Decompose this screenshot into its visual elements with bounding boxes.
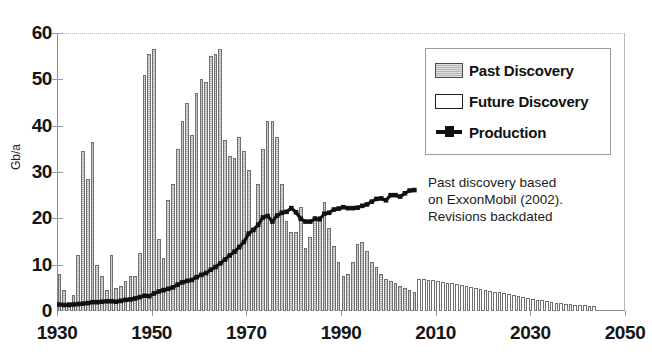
production-marker-1992 (351, 206, 356, 211)
production-marker-1969 (242, 240, 247, 245)
production-marker-1958 (190, 278, 195, 283)
production-marker-1983 (308, 219, 313, 224)
production-marker-1972 (256, 223, 261, 228)
production-marker-1979 (289, 206, 294, 211)
x-axis-tick-1990: 1990 (301, 322, 381, 344)
production-marker-2004 (407, 188, 412, 193)
production-marker-1962 (209, 267, 214, 272)
production-marker-1971 (251, 228, 256, 233)
production-marker-1995 (365, 202, 370, 207)
legend-label-production: Production (469, 124, 546, 141)
y-axis-tick-0: 0 (6, 301, 52, 320)
chart-legend: Past Discovery Future Discovery Producti… (425, 48, 611, 155)
production-marker-1937 (90, 300, 95, 305)
y-axis-title: Gb/a (9, 127, 23, 187)
production-marker-1996 (369, 199, 374, 204)
x-axis-tick-2010: 2010 (396, 322, 476, 344)
y-axis-tick-10: 10 (6, 255, 52, 274)
production-marker-1939 (100, 299, 105, 304)
production-marker-1940 (104, 299, 109, 304)
production-marker-1963 (213, 265, 218, 270)
production-marker-1947 (138, 295, 143, 300)
annotation-line-2: on ExxonMobil (2002). (428, 191, 628, 208)
production-marker-2001 (393, 193, 398, 198)
x-tick-mark-1950 (152, 311, 153, 316)
production-marker-1975 (270, 219, 275, 224)
production-marker-1931 (62, 303, 67, 308)
production-marker-2003 (403, 191, 408, 196)
x-axis-tick-1950: 1950 (112, 322, 192, 344)
production-marker-1982 (303, 219, 308, 224)
x-axis-tick-1930: 1930 (17, 322, 97, 344)
legend-item-production: Production (435, 119, 546, 145)
production-marker-1961 (204, 271, 209, 276)
y-axis-tick-labels: 0102030405060 (0, 0, 52, 363)
production-marker-1941 (109, 299, 114, 304)
production-marker-1945 (128, 297, 133, 302)
production-marker-1987 (327, 210, 332, 215)
x-tick-mark-2050 (625, 311, 626, 316)
x-tick-mark-1990 (341, 311, 342, 316)
production-marker-1965 (223, 257, 228, 262)
production-marker-1991 (346, 206, 351, 211)
production-marker-1993 (355, 205, 360, 210)
production-marker-1968 (237, 245, 242, 250)
production-marker-1949 (147, 294, 152, 299)
production-marker-1994 (360, 204, 365, 209)
production-line-swatch-icon (435, 124, 463, 140)
chart-annotation: Past discovery based on ExxonMobil (2002… (428, 174, 628, 225)
production-marker-1952 (161, 288, 166, 293)
production-marker-1990 (341, 205, 346, 210)
production-marker-1988 (332, 207, 337, 212)
production-marker-1935 (81, 301, 86, 306)
x-tick-mark-1970 (246, 311, 247, 316)
production-marker-1978 (284, 210, 289, 215)
discovery-production-chart: 0102030405060 Gb/a 193019501970199020102… (0, 0, 652, 363)
legend-item-future-discovery: Future Discovery (435, 88, 588, 114)
production-marker-1967 (232, 249, 237, 254)
production-marker-1955 (175, 282, 180, 287)
production-marker-1985 (317, 217, 322, 222)
production-marker-1960 (199, 273, 204, 278)
production-marker-1956 (180, 280, 185, 285)
x-tick-mark-2030 (530, 311, 531, 316)
production-marker-1948 (142, 293, 147, 298)
production-marker-1938 (95, 300, 100, 305)
y-axis-tick-50: 50 (6, 69, 52, 88)
production-marker-2002 (398, 194, 403, 199)
x-tick-mark-2010 (436, 311, 437, 316)
production-marker-1936 (85, 301, 90, 306)
production-marker-1980 (294, 210, 299, 215)
legend-label-future-discovery: Future Discovery (469, 93, 588, 110)
production-marker-1998 (379, 196, 384, 201)
production-marker-2005 (412, 188, 417, 193)
production-marker-1933 (71, 302, 76, 307)
x-axis-tick-2050: 2050 (585, 322, 652, 344)
production-marker-1959 (194, 275, 199, 280)
production-marker-1964 (218, 261, 223, 266)
production-marker-1973 (261, 215, 266, 220)
production-marker-1970 (246, 231, 251, 236)
production-marker-1942 (114, 299, 119, 304)
y-axis-tick-60: 60 (6, 23, 52, 42)
production-marker-1976 (275, 213, 280, 218)
production-marker-1981 (298, 217, 303, 222)
future-discovery-swatch-icon (435, 94, 463, 109)
legend-label-past-discovery: Past Discovery (469, 62, 574, 79)
x-axis-tick-1970: 1970 (206, 322, 286, 344)
production-marker-1974 (265, 214, 270, 219)
production-marker-1951 (156, 289, 161, 294)
production-marker-2000 (388, 193, 393, 198)
production-marker-1944 (123, 298, 128, 303)
production-marker-1953 (166, 286, 171, 291)
production-marker-1946 (133, 296, 138, 301)
production-marker-1950 (152, 291, 157, 296)
production-marker-1989 (336, 206, 341, 211)
y-axis-tick-20: 20 (6, 208, 52, 227)
production-marker-1984 (313, 217, 318, 222)
past-discovery-swatch-icon (435, 63, 463, 78)
production-marker-1997 (374, 197, 379, 202)
production-marker-1966 (227, 253, 232, 258)
production-marker-1943 (119, 299, 124, 304)
production-marker-1930 (57, 302, 62, 307)
